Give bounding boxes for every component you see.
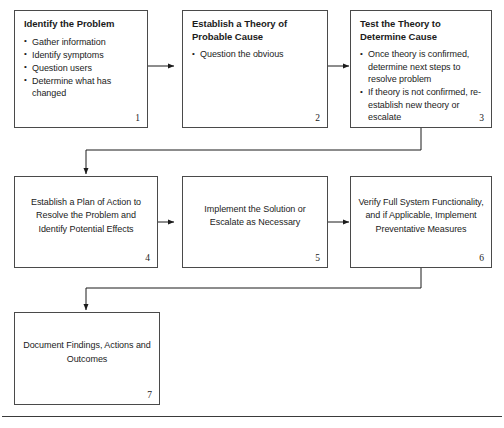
flow-node-3-bullet: Once theory is confirmed, determine next… [360, 48, 482, 86]
connector-3-to-4 [86, 128, 421, 174]
flow-node-1-bullet: Identify symptoms [24, 49, 138, 62]
flow-node-7-text: Document Findings, Actions and Outcomes [22, 339, 152, 366]
flow-node-6[interactable]: Verify Full System Functionality, and if… [350, 176, 492, 268]
flow-node-5-content: Implement the Solution or Escalate as Ne… [183, 177, 327, 251]
flow-node-3-number: 3 [479, 113, 484, 124]
flow-node-1-bullet: Gather information [24, 36, 138, 49]
flow-node-2-content: Establish a Theory of Probable Cause Que… [183, 11, 327, 111]
flow-node-3-bullet-list: Once theory is confirmed, determine next… [360, 48, 482, 124]
flow-node-1-title: Identify the Problem [24, 18, 138, 31]
flow-node-1-bullet: Question users [24, 62, 138, 75]
flow-node-6-content: Verify Full System Functionality, and if… [351, 177, 491, 251]
flow-node-1-number: 1 [135, 113, 140, 124]
flow-node-3-bullet: If theory is not confirmed, re-establish… [360, 86, 482, 124]
flow-node-2-bullet-list: Question the obvious [192, 48, 318, 61]
flow-node-3-content: Test the Theory to Determine Cause Once … [351, 11, 491, 111]
bottom-divider [2, 416, 502, 417]
flow-node-5-text: Implement the Solution or Escalate as Ne… [190, 203, 320, 230]
flow-node-2-title: Establish a Theory of Probable Cause [192, 18, 318, 43]
flow-node-2[interactable]: Establish a Theory of Probable Cause Que… [182, 10, 328, 128]
flow-node-7[interactable]: Document Findings, Actions and Outcomes … [14, 312, 160, 405]
flow-node-1-bullet: Determine what has changed [24, 75, 138, 100]
flowchart-canvas: Identify the Problem Gather information … [0, 0, 504, 428]
flow-node-1[interactable]: Identify the Problem Gather information … [14, 10, 148, 128]
flow-node-3-title: Test the Theory to Determine Cause [360, 18, 482, 43]
flow-node-3[interactable]: Test the Theory to Determine Cause Once … [350, 10, 492, 128]
flow-node-5[interactable]: Implement the Solution or Escalate as Ne… [182, 176, 328, 268]
flow-node-6-text: Verify Full System Functionality, and if… [358, 196, 484, 236]
flow-node-1-content: Identify the Problem Gather information … [15, 11, 147, 111]
flow-node-7-number: 7 [147, 390, 152, 401]
flow-node-7-content: Document Findings, Actions and Outcomes [15, 313, 159, 388]
flow-node-6-number: 6 [479, 253, 484, 264]
flow-node-4-content: Establish a Plan of Action to Resolve th… [15, 177, 157, 251]
flow-node-4-number: 4 [145, 253, 150, 264]
flow-node-1-bullet-list: Gather information Identify symptoms Que… [24, 36, 138, 100]
flow-node-4[interactable]: Establish a Plan of Action to Resolve th… [14, 176, 158, 268]
flow-node-2-number: 2 [315, 113, 320, 124]
flow-node-5-number: 5 [315, 253, 320, 264]
flow-node-4-text: Establish a Plan of Action to Resolve th… [22, 196, 150, 236]
flow-node-2-bullet: Question the obvious [192, 48, 318, 61]
connector-6-to-7 [86, 268, 421, 310]
